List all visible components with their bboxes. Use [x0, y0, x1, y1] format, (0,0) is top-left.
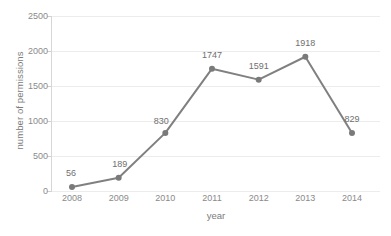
x-axis-tick-label: 2011	[189, 193, 235, 203]
x-axis-tick-label: 2009	[96, 193, 142, 203]
data-point-marker	[69, 184, 75, 190]
data-point-marker	[256, 77, 262, 83]
x-axis-tick-label: 2013	[282, 193, 328, 203]
data-point-marker	[349, 130, 355, 136]
data-point-label: 1591	[249, 61, 269, 71]
x-axis-title: year	[52, 210, 380, 221]
data-point-marker	[302, 54, 308, 60]
x-axis-tick-label: 2012	[236, 193, 282, 203]
y-axis-tick-label: 1000	[18, 116, 48, 126]
y-axis-tick-label: 2500	[18, 11, 48, 21]
data-point-marker	[209, 66, 215, 72]
y-axis-tick-label: 500	[18, 151, 48, 161]
y-axis-tick-label: 0	[18, 186, 48, 196]
data-point-label: 1747	[202, 50, 222, 60]
data-point-label: 830	[154, 116, 169, 126]
y-axis-tick-label: 2000	[18, 46, 48, 56]
x-axis-title-text: year	[207, 210, 225, 221]
data-point-marker	[162, 130, 168, 136]
y-axis-tick-labels: 05001000150020002500	[14, 0, 48, 236]
x-axis-tick-label: 2010	[142, 193, 188, 203]
data-point-marker	[116, 175, 122, 181]
data-point-label: 189	[112, 159, 127, 169]
x-axis-tick-label: 2014	[329, 193, 375, 203]
y-axis-tick-label: 1500	[18, 81, 48, 91]
x-axis-tick-label: 2008	[49, 193, 95, 203]
data-point-label: 56	[66, 168, 76, 178]
data-point-label: 1918	[295, 38, 315, 48]
line-chart: 05001000150020002500 2008200920102011201…	[0, 0, 391, 236]
data-point-label: 829	[344, 114, 359, 124]
